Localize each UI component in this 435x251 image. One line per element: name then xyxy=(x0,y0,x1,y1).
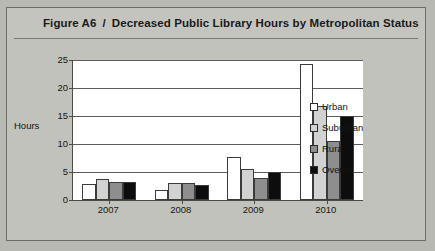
legend-label: Overall xyxy=(322,164,352,175)
legend-swatch-icon xyxy=(310,145,318,153)
x-axis-tick-label: 2010 xyxy=(306,204,346,215)
chart-legend: UrbanSuburbanRuralOverall xyxy=(310,96,392,180)
x-axis-tick-label: 2008 xyxy=(161,204,201,215)
legend-item-overall[interactable]: Overall xyxy=(310,159,392,180)
y-axis-tick xyxy=(69,200,73,201)
title-separator: / xyxy=(103,17,106,29)
legend-label: Urban xyxy=(322,101,348,112)
bar-urban-2008[interactable] xyxy=(155,190,169,200)
figure-number: Figure A6 xyxy=(43,17,97,29)
y-axis-tick-label: 5 xyxy=(46,167,68,177)
legend-item-urban[interactable]: Urban xyxy=(310,96,392,117)
legend-item-rural[interactable]: Rural xyxy=(310,138,392,159)
y-axis-tick xyxy=(69,144,73,145)
y-axis-tick-label: 25 xyxy=(46,55,68,65)
bar-group xyxy=(227,60,281,200)
bar-group xyxy=(82,60,136,200)
bar-urban-2009[interactable] xyxy=(227,157,241,200)
legend-swatch-icon xyxy=(310,124,318,132)
bar-rural-2009[interactable] xyxy=(254,178,268,200)
y-axis-tick-label: 0 xyxy=(46,195,68,205)
y-axis-tick-label: 20 xyxy=(46,83,68,93)
bar-overall-2007[interactable] xyxy=(123,182,137,200)
y-axis-tick-label: 15 xyxy=(46,111,68,121)
chart-container: Hours 0510152025 2007200820092010 UrbanS… xyxy=(14,46,418,232)
x-axis-tick-label: 2009 xyxy=(233,204,273,215)
x-axis-tick-label: 2007 xyxy=(88,204,128,215)
bar-overall-2008[interactable] xyxy=(195,185,209,200)
bar-group xyxy=(155,60,209,200)
legend-label: Rural xyxy=(322,143,345,154)
figure-page: Figure A6/Decreased Public Library Hours… xyxy=(0,0,435,251)
bar-suburban-2009[interactable] xyxy=(241,169,255,200)
bar-overall-2009[interactable] xyxy=(268,172,282,200)
y-axis-tick xyxy=(69,116,73,117)
figure-title-text: Decreased Public Library Hours by Metrop… xyxy=(112,17,419,29)
bar-suburban-2008[interactable] xyxy=(168,183,182,200)
title-divider xyxy=(14,38,418,39)
legend-label: Suburban xyxy=(322,122,363,133)
bar-rural-2008[interactable] xyxy=(182,183,196,200)
bar-urban-2007[interactable] xyxy=(82,184,96,200)
legend-swatch-icon xyxy=(310,166,318,174)
figure-title-band: Figure A6/Decreased Public Library Hours… xyxy=(7,8,425,38)
legend-item-suburban[interactable]: Suburban xyxy=(310,117,392,138)
y-axis-tick xyxy=(69,60,73,61)
legend-swatch-icon xyxy=(310,103,318,111)
bar-rural-2007[interactable] xyxy=(109,182,123,200)
y-axis-labels: 0510152025 xyxy=(38,60,68,201)
x-axis-labels: 2007200820092010 xyxy=(72,204,364,220)
y-axis-tick xyxy=(69,172,73,173)
y-axis-tick xyxy=(69,88,73,89)
bar-suburban-2007[interactable] xyxy=(96,179,110,200)
y-axis-title: Hours xyxy=(14,120,39,131)
page-title: Figure A6/Decreased Public Library Hours… xyxy=(43,17,419,29)
y-axis-tick-label: 10 xyxy=(46,139,68,149)
